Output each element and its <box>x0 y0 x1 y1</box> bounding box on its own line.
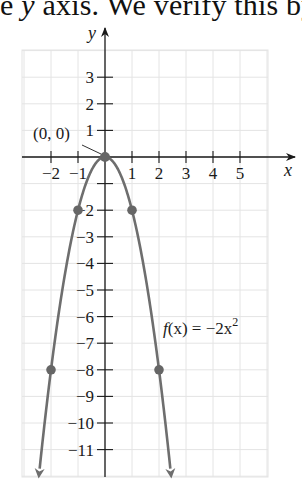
origin-label: (0, 0) <box>33 124 70 143</box>
y-tick-label: −3 <box>76 228 94 247</box>
y-tick-label: −11 <box>68 441 94 460</box>
x-tick-label: 2 <box>155 164 164 183</box>
y-tick-label: −8 <box>76 361 94 380</box>
function-label: f(x) = −2x2 <box>163 315 238 338</box>
data-point <box>127 205 137 215</box>
x-tick-label: 5 <box>236 164 245 183</box>
func-body: (x) = −2x <box>168 319 233 338</box>
data-point <box>46 365 56 375</box>
x-tick-label: −2 <box>42 164 60 183</box>
x-tick-label: 3 <box>182 164 191 183</box>
x-tick-label: 1 <box>128 164 137 183</box>
y-tick-label: −5 <box>76 281 94 300</box>
parabola-chart: −2−112345321−2−3−4−5−6−7−8−9−10−11 y x (… <box>0 0 302 496</box>
y-tick-label: 1 <box>86 121 95 140</box>
y-tick-label: 2 <box>86 95 95 114</box>
x-axis-label: x <box>283 160 292 180</box>
x-tick-label: −1 <box>69 164 87 183</box>
y-tick-label: −9 <box>76 387 94 406</box>
data-point <box>73 205 83 215</box>
y-axis-label: y <box>86 23 96 43</box>
y-tick-label: −10 <box>67 414 94 433</box>
grid-lines <box>22 50 268 477</box>
func-exponent: 2 <box>232 315 238 329</box>
y-tick-label: −7 <box>76 334 95 353</box>
data-point <box>154 365 164 375</box>
y-tick-label: −6 <box>76 308 94 327</box>
y-tick-label: 3 <box>86 68 95 87</box>
origin-leader-line <box>82 145 101 154</box>
y-tick-label: −4 <box>76 254 95 273</box>
x-tick-label: 4 <box>209 164 218 183</box>
data-point <box>100 152 110 162</box>
